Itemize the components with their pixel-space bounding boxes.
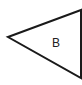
triangle-label: B: [52, 36, 60, 50]
triangle-shape: B: [0, 0, 82, 85]
triangle-outline: [8, 10, 81, 78]
